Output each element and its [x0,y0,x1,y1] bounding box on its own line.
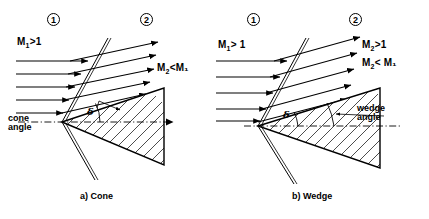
wedge-angle-label: wedge angle [357,104,385,123]
mach-base: M [362,39,371,50]
mach-relation: >1 [30,36,42,47]
region-2-marker: 2 [140,13,153,26]
upstream-mach-label: M1>1 [17,37,41,49]
panel-caption: b) Wedge [292,192,332,201]
panel-caption: a) Cone [80,192,113,201]
incoming-streamlines [16,61,88,113]
mach-base: M [362,57,371,68]
region-2-marker: 2 [349,13,362,26]
deflection-angle-symbol: δ [87,107,94,118]
mach-base: M [17,36,26,47]
mach-base: M [218,39,227,50]
mach-base: M [157,62,166,73]
incoming-streamlines [216,61,287,121]
downstream-mach-label-2: M2< M₁ [362,58,397,70]
cone-diagram-graphics [0,0,214,219]
mach-relation: > 1 [231,39,246,50]
wedge-angle-label-line2: angle [357,113,385,122]
downstream-mach-label-1: M2>1 [362,40,386,52]
wedge-diagram-graphics [214,0,428,219]
mach-relation: <M₁ [170,62,189,73]
panel-cone: 1 2 M1>1 M2<M₁ cone angle δ a) Cone [0,0,214,219]
cone-angle-label-line2: angle [8,123,32,132]
axis-arrowhead [166,119,174,126]
region-1-marker: 1 [47,13,60,26]
upstream-mach-label: M1> 1 [218,40,245,52]
mach-relation: < M₁ [375,57,397,68]
cone-angle-label: cone angle [8,114,32,133]
downstream-mach-label: M2<M₁ [157,63,189,75]
panel-wedge: 1 2 M1> 1 M2>1 M2< M₁ wedge angle δ b) W… [214,0,428,219]
deflection-angle-symbol: δ [283,110,290,121]
mach-relation: >1 [375,39,387,50]
figure-root: 1 2 M1>1 M2<M₁ cone angle δ a) Cone [0,0,429,219]
region-1-marker: 1 [247,13,260,26]
